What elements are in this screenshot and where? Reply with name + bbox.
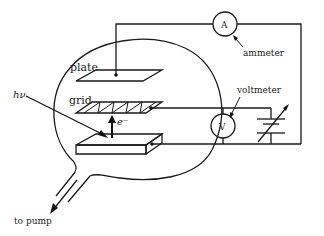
ammeter-right-wire	[237, 24, 301, 144]
grid-label: grid	[69, 94, 92, 107]
plate-label: plate	[70, 61, 98, 74]
electron-arrow-icon	[108, 115, 116, 123]
pump-tube-left	[56, 176, 72, 196]
ammeter-symbol: A	[220, 20, 228, 30]
pump-tube-right	[68, 176, 90, 202]
battery-variable-arrow	[258, 108, 286, 142]
ammeter-label: ammeter	[243, 48, 285, 58]
cathode-front	[76, 145, 146, 154]
pump-label: to pump	[14, 216, 52, 226]
plate-wire	[116, 24, 213, 75]
pump-neck	[72, 162, 76, 176]
photon-label: hν	[13, 89, 26, 100]
voltmeter-pointer	[231, 97, 240, 115]
electron-label: e⁻	[117, 116, 128, 127]
voltmeter-label: voltmeter	[236, 85, 282, 95]
photoelectric-diagram: to pump plate grid hν e⁻ A ammeter	[0, 0, 324, 236]
voltmeter-symbol: V	[218, 122, 226, 132]
grid-wires	[84, 102, 156, 113]
